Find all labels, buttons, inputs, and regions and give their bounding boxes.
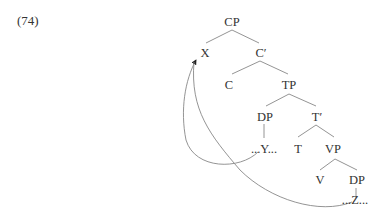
tree-branches [206, 30, 357, 198]
node-v: V [315, 173, 324, 187]
syntax-tree: CP X C′ C TP DP T′ ...Y... T VP V DP ...… [0, 0, 385, 210]
node-tp: TP [282, 78, 297, 92]
node-cp: CP [224, 15, 239, 29]
node-z: ...Z... [342, 193, 368, 207]
tree-nodes: CP X C′ C TP DP T′ ...Y... T VP V DP ...… [200, 15, 368, 207]
movement-arrows [183, 60, 352, 207]
movement-arrow-z-to-x [193, 62, 352, 207]
movement-arrow-y-to-x [183, 60, 258, 164]
node-c: C [225, 78, 233, 92]
node-x: X [200, 46, 209, 60]
node-c-bar: C′ [255, 46, 266, 60]
node-t: T [294, 142, 302, 156]
node-vp: VP [325, 142, 341, 156]
node-t-bar: T′ [312, 110, 323, 124]
node-y: ...Y... [251, 142, 277, 156]
node-dp-obj: DP [349, 173, 365, 187]
node-dp-spec: DP [257, 110, 273, 124]
